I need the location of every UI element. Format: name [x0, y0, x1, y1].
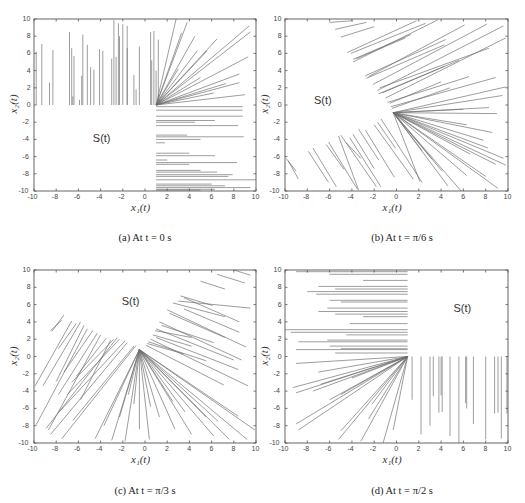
x-tick-label: 2: [417, 445, 421, 452]
y-tick-label: -2: [274, 370, 280, 377]
x-tick-label: -8: [303, 445, 309, 452]
x-tick-label: -6: [325, 445, 331, 452]
x-tick-label: 0: [394, 445, 398, 452]
y-tick-label: 4: [278, 318, 282, 325]
x-axis-label: x₁(t): [383, 453, 402, 465]
x-tick-label: 10: [504, 445, 512, 452]
plot-area-d: [0, 0, 525, 503]
x-tick-label: 4: [439, 445, 443, 452]
x-tick-label: -4: [348, 445, 354, 452]
region-label-s-t: S(t): [453, 302, 471, 314]
y-tick-label: -6: [274, 404, 280, 411]
y-tick-label: -8: [274, 422, 280, 429]
trajectory-lines: [285, 272, 507, 443]
y-tick-label: 10: [274, 266, 282, 273]
x-tick-label: -10: [278, 445, 288, 452]
axes-frame: [285, 270, 508, 443]
y-tick-label: -10: [269, 439, 279, 446]
y-tick-label: 8: [278, 283, 282, 290]
y-tick-label: 2: [278, 335, 282, 342]
trajectory-line: [298, 357, 407, 431]
y-tick-label: -4: [274, 387, 280, 394]
y-tick-label: 0: [278, 353, 282, 360]
y-tick-label: 6: [278, 301, 282, 308]
y-axis-label: x₂(t): [258, 341, 270, 371]
trajectory-line: [293, 357, 408, 388]
x-tick-label: 6: [461, 445, 465, 452]
x-tick-label: 8: [484, 445, 488, 452]
x-tick-label: -2: [370, 445, 376, 452]
